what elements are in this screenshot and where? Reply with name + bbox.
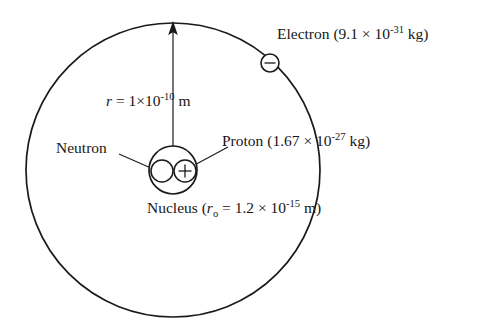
proton-label: Proton (1.67 × 10-27 kg) xyxy=(222,133,370,149)
electron-label-exponent: -31 xyxy=(390,24,404,35)
radius-label-equals: = xyxy=(112,92,129,109)
neutron-label-name: Neutron xyxy=(56,139,107,156)
electron-label-times: × xyxy=(358,25,375,42)
electron-label-close-paren: ) xyxy=(423,25,428,42)
atom-diagram-canvas: Electron (9.1 × 10-31 kg) r = 1×10-10 m … xyxy=(0,0,504,333)
radius-label-unit: m xyxy=(175,92,191,109)
radius-label: r = 1×10-10 m xyxy=(106,93,191,109)
electron-label: Electron (9.1 × 10-31 kg) xyxy=(277,26,429,42)
nucleus-label-base: 10 xyxy=(271,199,287,216)
radius-label-times: × xyxy=(136,92,145,109)
atom-diagram-svg xyxy=(0,0,504,333)
nucleus-label-name: Nucleus xyxy=(147,199,198,216)
proton-label-exponent: -27 xyxy=(332,131,346,142)
proton-label-name: Proton xyxy=(222,132,263,149)
proton-label-unit: kg xyxy=(346,132,365,149)
proton-label-times: × xyxy=(300,132,317,149)
nucleus-label: Nucleus (ro = 1.2 × 10-15 m) xyxy=(147,200,321,216)
neutron-particle-circle xyxy=(151,160,173,182)
electron-label-mantissa: 9.1 xyxy=(339,25,358,42)
proton-label-close-paren: ) xyxy=(365,132,370,149)
nucleus-label-unit: m xyxy=(300,199,316,216)
radius-label-base: 10 xyxy=(145,92,161,109)
nucleus-label-exponent: -15 xyxy=(286,198,300,209)
nucleus-label-equals: = xyxy=(218,199,235,216)
nucleus-label-times: × xyxy=(254,199,271,216)
nucleus-label-mantissa: 1.2 xyxy=(235,199,254,216)
electron-label-name: Electron xyxy=(277,25,330,42)
radius-label-exponent: -10 xyxy=(161,91,175,102)
nucleus-label-close-paren: ) xyxy=(316,199,321,216)
electron-label-base: 10 xyxy=(374,25,390,42)
electron-label-unit: kg xyxy=(404,25,423,42)
proton-label-mantissa: 1.67 xyxy=(272,132,299,149)
proton-label-base: 10 xyxy=(316,132,332,149)
neutron-label: Neutron xyxy=(56,140,107,156)
